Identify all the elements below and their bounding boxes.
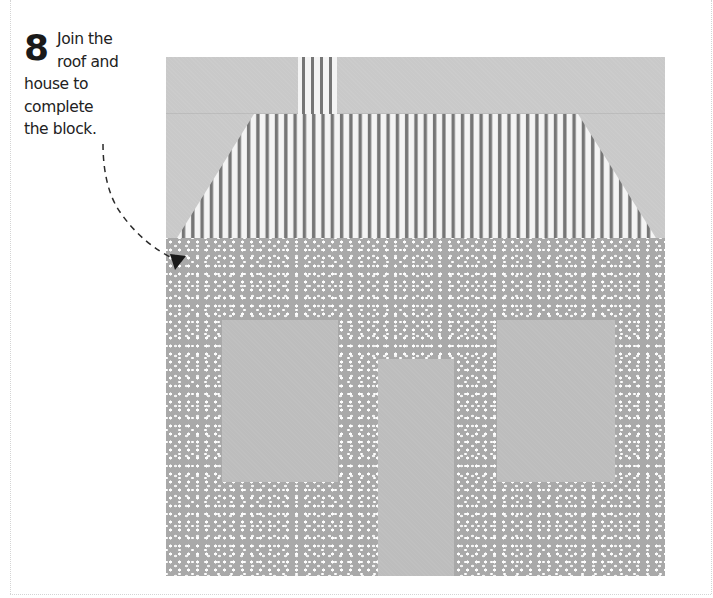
house-quilt-block	[166, 57, 665, 576]
page-border-bottom	[10, 594, 711, 595]
step-text-line: the block.	[24, 118, 144, 141]
door	[378, 359, 454, 576]
right-window	[497, 320, 615, 482]
left-window	[222, 320, 338, 482]
roof	[166, 57, 665, 238]
step-text-line: complete	[24, 96, 144, 119]
step-text-line: house to	[24, 73, 144, 96]
instruction-step: 8 Join the roof and house to complete th…	[24, 28, 144, 141]
step-number: 8	[24, 30, 48, 66]
page-border-left	[10, 0, 11, 594]
page-border-right	[711, 0, 712, 594]
